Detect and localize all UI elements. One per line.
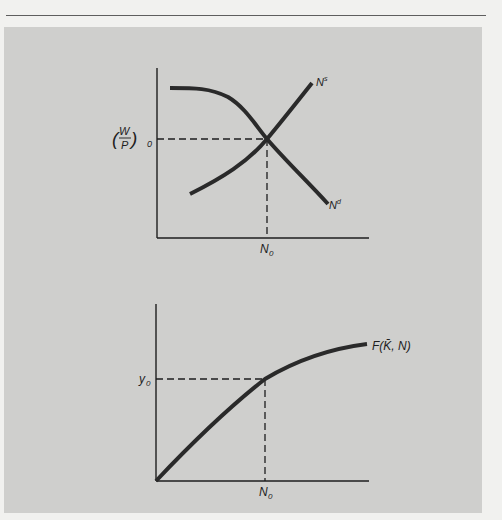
wage-label-numerator: W	[119, 125, 131, 137]
demand-label-superscript: d	[337, 198, 342, 205]
output-y0-label: y 0	[138, 372, 151, 388]
labor-demand-curve	[170, 88, 328, 204]
production-function-curve	[156, 344, 367, 481]
wage-label-denominator: P	[121, 139, 129, 151]
labor-supply-label: N s	[316, 75, 328, 88]
supply-label-superscript: s	[324, 75, 328, 82]
top-n0-main: N	[260, 242, 269, 256]
bottom-n0-main: N	[259, 485, 268, 499]
wage-label-subscript: 0	[147, 139, 152, 149]
real-wage-label: ( W P ) 0	[112, 125, 152, 151]
top-n0-subscript: 0	[269, 249, 274, 258]
demand-label-main: N	[329, 199, 337, 211]
y0-main: y	[138, 372, 146, 386]
top-n0-label: N 0	[260, 242, 274, 258]
diagram-canvas: ( W P ) 0 N 0 N s N d y 0	[0, 0, 502, 520]
bottom-n0-subscript: 0	[268, 492, 273, 501]
production-function-label: F(K̄, N)	[372, 339, 411, 353]
y0-subscript: 0	[146, 379, 151, 388]
supply-label-main: N	[316, 76, 324, 88]
labor-demand-label: N d	[329, 198, 342, 211]
bottom-n0-label: N 0	[259, 485, 273, 501]
production-function-chart: y 0 N 0 F(K̄, N)	[138, 304, 411, 501]
labor-market-chart: ( W P ) 0 N 0 N s N d	[112, 68, 369, 258]
wage-label-close-paren: )	[129, 128, 137, 149]
